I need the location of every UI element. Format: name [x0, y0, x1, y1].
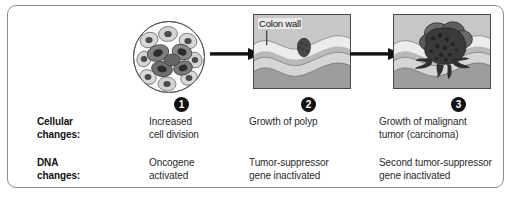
cellular-changes-label: Cellular changes: [37, 116, 142, 141]
dna-changes-label: DNA changes: [37, 157, 142, 182]
cell-cluster-illustration [132, 20, 206, 94]
cellular-change-stage-1: Increased cell division [149, 116, 249, 141]
dna-changes-label-line1: DNA [37, 157, 142, 170]
dna-change-stage-3: Second tumor-suppressor gene inactivated [379, 157, 504, 182]
changes-table: Cellular changes: Increased cell divisio… [8, 116, 503, 190]
cellular-changes-row: Cellular changes: Increased cell divisio… [8, 116, 503, 149]
cellular-change-stage-3-line1: Growth of malignant [379, 116, 504, 129]
dna-change-stage-2: Tumor-suppressor gene inactivated [249, 157, 384, 182]
cellular-changes-label-line1: Cellular [37, 116, 142, 129]
colon-wall-polyp-illustration: Colon wall [253, 14, 351, 89]
cellular-changes-label-line2: changes: [37, 129, 142, 142]
dna-change-stage-2-line2: gene inactivated [249, 170, 384, 183]
cellular-change-stage-3-line2: tumor (carcinoma) [379, 129, 504, 142]
dna-change-stage-1: Oncogene activated [149, 157, 249, 182]
cellular-change-stage-2-line1: Growth of polyp [249, 116, 384, 129]
dna-changes-row: DNA changes: Oncogene activated Tumor-su… [8, 157, 503, 190]
cellular-change-stage-3: Growth of malignant tumor (carcinoma) [379, 116, 504, 141]
dna-change-stage-1-line2: activated [149, 170, 249, 183]
step-marker-3: 3 [451, 97, 466, 112]
dna-change-stage-3-line1: Second tumor-suppressor [379, 157, 504, 170]
dna-changes-label-line2: changes: [37, 170, 142, 183]
dna-change-stage-1-line1: Oncogene [149, 157, 249, 170]
step-marker-2: 2 [301, 97, 316, 112]
cellular-change-stage-2: Growth of polyp [249, 116, 384, 129]
cellular-change-stage-1-line1: Increased [149, 116, 249, 129]
step-marker-1: 1 [174, 97, 189, 112]
cellular-change-stage-1-line2: cell division [149, 129, 249, 142]
diagram-frame: Colon wall [7, 5, 504, 188]
dna-change-stage-2-line1: Tumor-suppressor [249, 157, 384, 170]
dna-change-stage-3-line2: gene inactivated [379, 170, 504, 183]
colon-wall-tumor-illustration [393, 14, 491, 89]
colon-wall-annotation: Colon wall [258, 18, 302, 29]
